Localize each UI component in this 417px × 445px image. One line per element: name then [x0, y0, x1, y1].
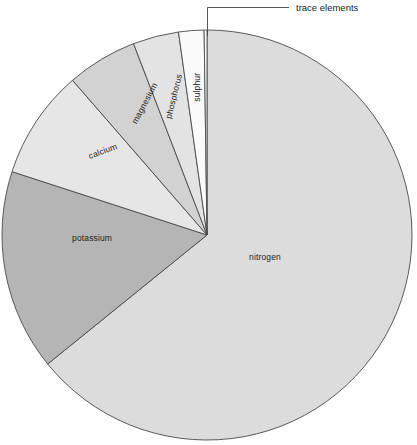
pie-chart-figure: nitrogenpotassiumcalciummagnesiumphospho… — [0, 0, 417, 445]
caption-line: nts — [0, 418, 96, 431]
figure-caption: m the portions ce the nts — [0, 378, 96, 431]
caption-line: ce the — [0, 404, 96, 417]
caption-line: m the — [0, 378, 96, 391]
caption-line: portions — [0, 391, 96, 404]
trace-elements-label: trace elements — [296, 3, 358, 13]
